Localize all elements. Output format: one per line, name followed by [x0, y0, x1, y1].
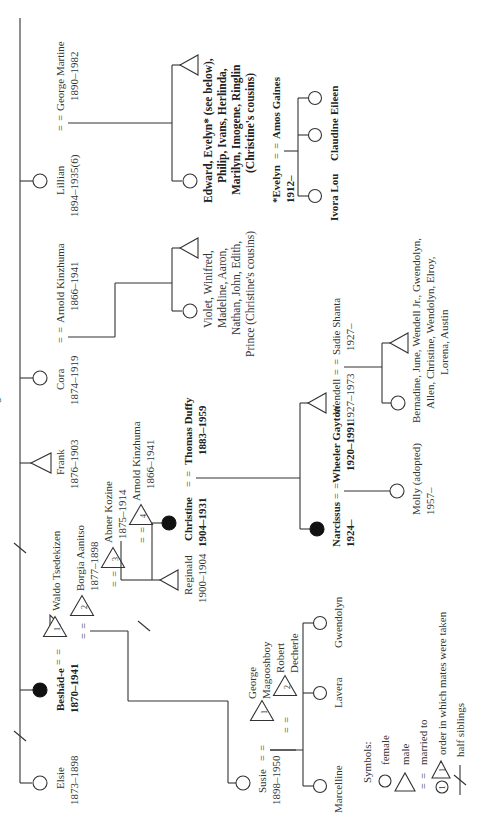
female-icon: [314, 780, 327, 793]
female-icon: [236, 776, 250, 790]
svg-text:1927–: 1927–: [344, 323, 356, 351]
svg-text:Christine: Christine: [182, 497, 194, 541]
svg-text:1: 1: [53, 627, 62, 631]
mate-robert-decherle: 2 Robert Decherle: [274, 633, 301, 695]
female-icon: [309, 92, 322, 105]
svg-text:George: George: [246, 667, 258, 699]
svg-text:1876–1903: 1876–1903: [68, 439, 80, 489]
person-lavera: Lavera: [332, 677, 344, 708]
person-sadie-shanta: Sadie Shanta 1927–: [330, 298, 356, 355]
marriage-symbol: = =: [53, 648, 64, 665]
female-filled-icon: [310, 522, 324, 536]
svg-text:1866–1941: 1866–1941: [68, 262, 80, 312]
person-christine: Christine 1904–1931: [162, 497, 208, 547]
person-narcissus: Narcissus 1924–: [310, 501, 356, 547]
legend: Symbols: female male = = married to 1 1 …: [361, 611, 466, 795]
marriage-symbol: = =: [331, 358, 342, 375]
svg-text:Madeline, Aaron,: Madeline, Aaron,: [216, 248, 229, 328]
person-arnold-cora: Arnold Kinzhuma 1866–1941: [54, 243, 80, 323]
wendell-children-text: Bernadine, June, Wendell Jr., Gwendolyn,…: [410, 238, 450, 423]
christine-descent-lines: [196, 403, 310, 529]
svg-text:1883–1959: 1883–1959: [196, 405, 208, 455]
person-marcelline: Marcelline: [332, 765, 344, 813]
svg-text:Lillian: Lillian: [54, 165, 66, 195]
female-icon: [391, 396, 405, 410]
svg-text:Sadie Shanta: Sadie Shanta: [330, 298, 342, 355]
svg-text:order in which mates were take: order in which mates were taken: [436, 611, 448, 755]
svg-text:1: 1: [260, 710, 269, 714]
person-eileen: Eileen: [328, 86, 340, 115]
person-george-martine: George Martine 1890–1982: [54, 41, 80, 111]
female-filled-icon: [33, 683, 47, 697]
person-thomas-duffy: Thomas Duffy 1883–1959: [182, 397, 208, 465]
svg-text:1: 1: [438, 768, 447, 772]
female-icon: [314, 687, 327, 700]
male-icon: [31, 453, 51, 473]
half-sibling-icon: [454, 765, 466, 795]
svg-text:4: 4: [139, 514, 148, 518]
mate-borgia: 2 Borgia Aanitso 1877–1898: [71, 524, 101, 615]
svg-text:1: 1: [438, 786, 447, 790]
female-icon: [183, 174, 197, 188]
female-icon: [33, 371, 47, 385]
male-icon: [308, 393, 326, 413]
mate-arnold-4: 4 Arnold Kinzhuma 1866–1941: [130, 421, 157, 524]
person-elsie: Elsie 1873–1898: [33, 755, 80, 805]
male-icon: [390, 333, 408, 353]
svg-text:1904–1931: 1904–1931: [196, 498, 208, 548]
svg-text:1894–1935(6): 1894–1935(6): [68, 154, 81, 217]
female-icon: [379, 775, 391, 787]
svg-text:Lorena, Austin: Lorena, Austin: [438, 309, 450, 375]
mate-george-magooshboy: 1 George Magooshboy: [246, 641, 274, 720]
svg-text:Molly (adopted): Molly (adopted): [410, 443, 423, 515]
marriage-symbol: = =: [55, 114, 66, 131]
svg-text:1898–1950: 1898–1950: [270, 755, 282, 805]
svg-text:1890–1982: 1890–1982: [68, 52, 80, 102]
legend-heading: Symbols:: [361, 741, 373, 783]
female-icon: [33, 174, 47, 188]
svg-text:Cora: Cora: [54, 369, 66, 391]
svg-text:Abner Kozine: Abner Kozine: [102, 481, 114, 543]
svg-text:Magooshboy: Magooshboy: [260, 641, 272, 699]
triangle-icon: [44, 617, 67, 637]
svg-text:*Evelyn: *Evelyn: [270, 165, 282, 203]
person-evelyn: *Evelyn 1912–: [270, 165, 296, 203]
svg-text:Robert: Robert: [274, 643, 286, 673]
person-ivora-lou: Ivora Lou: [328, 174, 340, 221]
svg-text:Beshád-e: Beshád-e: [54, 668, 66, 711]
male-icon: [180, 55, 198, 75]
svg-text:George Martine: George Martine: [54, 41, 66, 111]
male-icon: [160, 570, 178, 590]
marriage-symbol: = =: [183, 470, 194, 487]
svg-text:Borgia Aanitso: Borgia Aanitso: [74, 524, 86, 591]
marriage-symbol: = =: [78, 622, 89, 639]
male-icon: [180, 238, 198, 258]
genealogical-chart: Genealogical Chart 2 Elsie 1873–1898 Bes…: [0, 0, 494, 823]
svg-text:2: 2: [283, 685, 292, 689]
cora-descent-lines: [68, 248, 182, 337]
person-amos: Amos Gaines: [270, 76, 282, 139]
female-icon: [309, 190, 322, 203]
svg-text:1900–1904: 1900–1904: [196, 553, 208, 603]
person-wendell: Wendell 1927–1973: [308, 373, 356, 423]
marriage-symbol: = =: [257, 744, 268, 761]
svg-text:Waldo Tsedekizen: Waldo Tsedekizen: [50, 530, 62, 611]
svg-text:Violet, Winifred,: Violet, Winifred,: [202, 250, 215, 328]
svg-text:Allen, Christine, Wendolyn, El: Allen, Christine, Wendolyn, Elroy,: [424, 256, 436, 409]
person-susie: Susie 1898–1950: [236, 755, 282, 805]
svg-text:Arnold Kinzhuma: Arnold Kinzhuma: [54, 243, 66, 323]
lillian-descent-lines: [68, 65, 182, 181]
person-reginald: Reginald 1900–1904: [160, 553, 208, 603]
mate-abner: 3 Abner Kozine 1875–1914: [102, 481, 129, 568]
person-beshade: Beshád-e 1870–1941: [33, 664, 80, 714]
female-icon: [309, 129, 322, 142]
svg-text:1874–1919: 1874–1919: [68, 355, 80, 405]
svg-text:= =: = =: [418, 772, 429, 789]
svg-text:Wendell: Wendell: [330, 379, 342, 415]
svg-text:Nathan, John, Edith,: Nathan, John, Edith,: [230, 241, 243, 335]
generation1-sibship-line: [14, 18, 34, 783]
svg-text:1912–: 1912–: [284, 175, 296, 203]
svg-text:1873–1898: 1873–1898: [68, 755, 80, 805]
svg-text:1957–: 1957–: [424, 487, 436, 515]
person-frank: Frank 1876–1903: [31, 439, 80, 489]
